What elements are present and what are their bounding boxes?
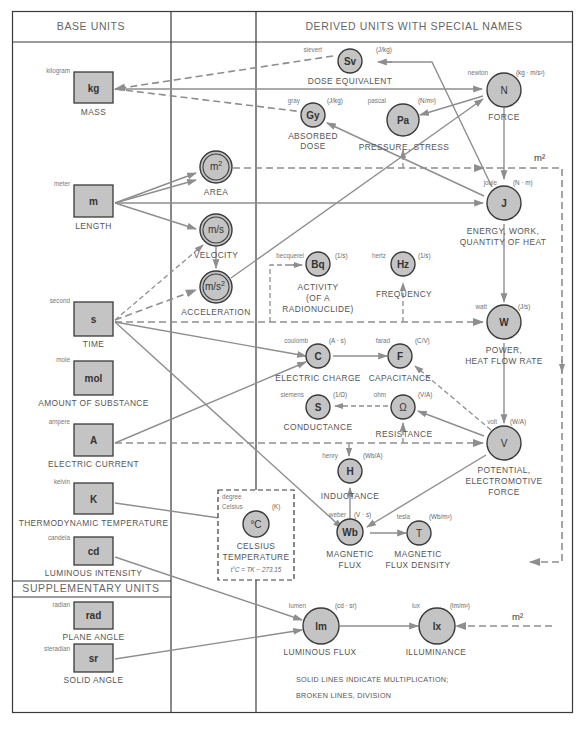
derived-unit-gy[interactable]: gray (J/kg) Gy ABSORBED DOSE	[288, 97, 343, 151]
celsius-temperature-box[interactable]: degree Celsius (K) °C CELSIUS TEMPERATUR…	[218, 490, 294, 580]
unit-quantity: THERMODYNAMIC TEMPERATURE	[19, 518, 169, 528]
unit-quantity: TIME	[83, 339, 105, 349]
derived-unit-ohm[interactable]: ohm (V/A) Ω RESISTANCE	[374, 391, 433, 439]
derived-unit-j[interactable]: joule (N · m) J ENERGY, WORK, QUANTITY O…	[460, 179, 547, 247]
unit-area[interactable]: m2 AREA	[200, 151, 232, 197]
unit-name: meter	[54, 180, 70, 187]
unit-quantity: LUMINOUS FLUX	[283, 647, 356, 657]
edge-s-c	[115, 322, 306, 356]
unit-quantity: CONDUCTANCE	[284, 422, 353, 432]
base-unit-cd[interactable]: candela cd LUMINOUS INTENSITY	[45, 534, 142, 578]
base-unit-mol[interactable]: mole mol AMOUNT OF SUBSTANCE	[38, 356, 149, 408]
connections	[115, 56, 562, 712]
unit-name: tesla	[397, 513, 411, 520]
unit-quantity: SOLID ANGLE	[64, 675, 124, 685]
unit-definition: (J/kg)	[376, 46, 392, 54]
unit-quantity: MAGNETIC	[394, 549, 441, 559]
unit-quantity: DOSE	[300, 141, 325, 151]
unit-definition: (1/Ω)	[333, 391, 347, 399]
derived-unit-lx[interactable]: lux (lm/m²) lx ILLUMINANCE	[406, 602, 470, 657]
unit-quantity: FLUX DENSITY	[386, 560, 451, 570]
unit-symbol: mol	[85, 373, 103, 384]
unit-symbol: Sv	[344, 56, 357, 67]
unit-symbol: T	[416, 528, 422, 539]
unit-name: becquerel	[276, 252, 304, 260]
unit-quantity: ACCELERATION	[181, 307, 250, 317]
unit-quantity: TEMPERATURE	[222, 552, 289, 562]
unit-quantity: FORCE	[488, 487, 519, 497]
derived-unit-pa[interactable]: pascal (N/m²) Pa PRESSURE, STRESS	[359, 97, 450, 152]
base-unit-m[interactable]: meter m LENGTH	[54, 180, 113, 231]
unit-name: joule	[483, 179, 498, 187]
unit-definition: (lm/m²)	[450, 602, 470, 610]
unit-quantity: PLANE ANGLE	[62, 632, 124, 642]
unit-name: henry	[322, 452, 339, 460]
unit-name: sievert	[303, 46, 322, 53]
derived-unit-v[interactable]: volt (W/A) V POTENTIAL, ELECTROMOTIVE FO…	[466, 418, 543, 497]
unit-symbol: Bq	[311, 259, 324, 270]
unit-name: coulomb	[284, 337, 308, 344]
unit-symbol: V	[501, 438, 508, 449]
derived-unit-s[interactable]: siemens (1/Ω) S CONDUCTANCE	[281, 391, 353, 432]
unit-name: steradian	[44, 645, 70, 652]
base-unit-kg[interactable]: kilogram kg MASS	[46, 67, 113, 117]
derived-unit-h[interactable]: henry (Wb/A) H INDUCTANCE	[321, 452, 383, 501]
base-unit-s[interactable]: second s TIME	[50, 297, 113, 349]
unit-symbol: Wb	[342, 527, 358, 538]
unit-definition: (V/A)	[418, 391, 432, 399]
unit-symbol: A	[90, 435, 97, 446]
derived-unit-f[interactable]: farad (C/V) F CAPACITANCE	[369, 337, 432, 383]
edge-acceleration-n	[231, 99, 483, 278]
legend-line-2: BROKEN LINES, DIVISION	[296, 691, 391, 700]
unit-quantity: (OF A	[306, 293, 330, 303]
header-supplementary-units: SUPPLEMENTARY UNITS	[22, 582, 159, 594]
unit-symbol: °C	[250, 519, 261, 530]
derived-unit-n[interactable]: newton (kg · m/s²) N FORCE	[468, 69, 545, 122]
base-unit-A[interactable]: ampere A ELECTRIC CURRENT	[48, 418, 139, 469]
unit-quantity: ILLUMINANCE	[406, 647, 467, 657]
derived-unit-t[interactable]: tesla (Wb/m²) T MAGNETIC FLUX DENSITY	[386, 513, 452, 570]
unit-name: gray	[288, 97, 301, 105]
unit-symbol: Pa	[397, 115, 410, 126]
m2-label-lower: m²	[512, 611, 523, 622]
base-unit-K[interactable]: kelvin K THERMODYNAMIC TEMPERATURE	[19, 478, 169, 528]
derived-unit-hz[interactable]: hertz (1/s) Hz FREQUENCY	[372, 252, 432, 299]
unit-quantity: LUMINOUS INTENSITY	[45, 568, 142, 578]
unit-quantity: ELECTRIC CHARGE	[275, 373, 361, 383]
derived-unit-c[interactable]: coulomb (A · s) C ELECTRIC CHARGE	[275, 337, 361, 383]
unit-symbol: H	[346, 466, 353, 477]
unit-name: lumen	[289, 602, 307, 609]
derived-unit-sv[interactable]: sievert (J/kg) Sv DOSE EQUIVALENT	[303, 46, 392, 86]
unit-quantity: FLUX	[338, 560, 361, 570]
unit-quantity: ABSORBED	[288, 131, 338, 141]
unit-quantity: LENGTH	[75, 221, 111, 231]
supplementary-unit-rad[interactable]: radian rad PLANE ANGLE	[52, 601, 124, 642]
m2-label-upper: m²	[534, 152, 545, 163]
edge-kg-gy	[115, 89, 312, 113]
unit-quantity: RESISTANCE	[376, 429, 433, 439]
unit-velocity[interactable]: m/s VELOCITY	[194, 214, 239, 260]
unit-symbol: m/s	[208, 224, 224, 235]
unit-definition: (W/A)	[510, 418, 526, 426]
unit-quantity: ENERGY, WORK,	[467, 226, 540, 236]
unit-definition: (K)	[272, 503, 280, 511]
derived-unit-w[interactable]: watt (J/s) W POWER, HEAT FLOW RATE	[465, 303, 543, 366]
unit-quantity: PRESSURE, STRESS	[359, 142, 450, 152]
unit-symbol: Gy	[306, 110, 320, 121]
unit-quantity: QUANTITY OF HEAT	[460, 237, 547, 247]
unit-quantity: HEAT FLOW RATE	[465, 356, 543, 366]
derived-unit-bq[interactable]: becquerel (1/s) Bq ACTIVITY (OF A RADION…	[276, 252, 353, 314]
unit-acceleration[interactable]: m/s2 ACCELERATION	[181, 271, 250, 317]
unit-quantity: POWER,	[486, 345, 522, 355]
unit-name: hertz	[372, 252, 386, 259]
unit-quantity: MASS	[81, 107, 106, 117]
unit-name: watt	[474, 303, 487, 310]
si-units-diagram: BASE UNITS DERIVED UNITS WITH SPECIAL NA…	[0, 0, 584, 730]
unit-definition: (N · m)	[513, 179, 533, 187]
unit-name: newton	[468, 69, 489, 76]
derived-unit-lm[interactable]: lumen (cd · sr) lm LUMINOUS FLUX	[283, 602, 356, 657]
unit-symbol: F	[397, 351, 403, 362]
unit-name: lux	[412, 602, 421, 609]
supplementary-unit-sr[interactable]: steradian sr SOLID ANGLE	[44, 644, 123, 685]
unit-name: radian	[52, 601, 70, 608]
